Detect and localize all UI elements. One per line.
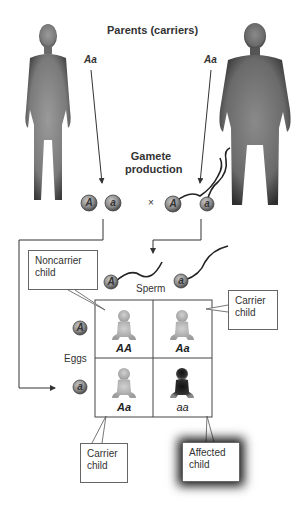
egg-row-a-letter: a	[76, 381, 84, 392]
sperm-a-letter: a	[203, 198, 211, 209]
egg-A-letter: A	[85, 197, 93, 208]
carrier-top-line2: child	[235, 307, 271, 319]
sperm-row-tail-A	[115, 262, 162, 282]
father-silhouette	[219, 23, 290, 205]
carrier-top-callout: Carrier child	[228, 290, 278, 330]
noncarrier-callout: Noncarrier child	[28, 250, 98, 290]
noncarrier-line2: child	[35, 267, 91, 279]
affected-line1: Affected	[189, 447, 233, 459]
gamete-production-line1: Gamete	[125, 150, 177, 163]
father-arrow	[200, 70, 211, 183]
gamete-production-label: Gamete production	[125, 150, 177, 176]
punnett-cell-Aa-top: Aa	[153, 300, 212, 358]
sperm-label: Sperm	[136, 283, 165, 294]
cell-genotype: aa	[153, 401, 212, 413]
punnett-cell-aa: aa	[153, 358, 212, 417]
punnett-cell-AA: AA	[95, 300, 153, 358]
affected-line2: child	[189, 459, 233, 471]
mother-silhouette	[25, 24, 70, 200]
eggs-connector	[19, 219, 103, 388]
sperm-row-tail-a	[185, 246, 228, 280]
sperm-A-letter: A	[169, 198, 177, 209]
cross-symbol: ×	[148, 197, 154, 208]
cell-genotype: Aa	[95, 401, 153, 413]
noncarrier-line1: Noncarrier	[35, 255, 91, 267]
cell-genotype: AA	[95, 342, 153, 354]
sperm-row-A-letter: A	[107, 276, 115, 287]
punnett-cell-Aa-bottom: Aa	[95, 358, 153, 417]
cell-genotype: Aa	[153, 342, 212, 354]
egg-row-A-letter: A	[76, 322, 84, 333]
mother-genotype: Aa	[84, 54, 97, 65]
carrier-bottom-line1: Carrier	[87, 448, 121, 460]
affected-callout: Affected child	[182, 442, 240, 482]
carrier-bottom-line2: child	[87, 460, 121, 472]
sperm-connector	[153, 219, 201, 253]
father-genotype: Aa	[204, 54, 217, 65]
carrier-top-line1: Carrier	[235, 295, 271, 307]
parents-title: Parents (carriers)	[107, 24, 198, 36]
carrier-bottom-pointer	[92, 416, 106, 443]
gamete-production-line2: production	[125, 163, 177, 176]
mother-arrow	[91, 70, 102, 183]
carrier-bottom-callout: Carrier child	[80, 443, 128, 483]
affected-pointer	[206, 416, 214, 442]
eggs-label: Eggs	[64, 353, 87, 364]
egg-a-letter: a	[109, 197, 117, 208]
sperm-row-a-letter: a	[177, 275, 185, 286]
